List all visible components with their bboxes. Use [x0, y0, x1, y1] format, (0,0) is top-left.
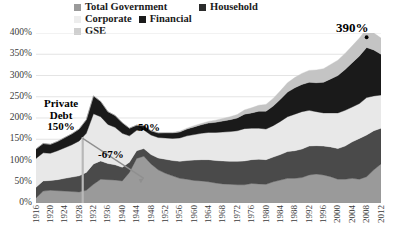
x-axis-tick-label: 1972 — [233, 205, 242, 223]
x-axis-tick-label: 1984 — [276, 205, 285, 223]
legend-swatch-total-government — [74, 4, 81, 11]
debt-to-gdp-area-chart: Total Government Household Corporate Fin… — [0, 0, 393, 252]
legend-swatch-financial — [139, 16, 146, 23]
stacked-area-svg — [36, 33, 381, 203]
x-axis-tick-label: 2008 — [362, 205, 371, 223]
x-axis-tick-label: 1940 — [118, 205, 127, 223]
y-axis-tick-label: 300% — [0, 71, 32, 81]
x-axis-tick-label: 1996 — [319, 205, 328, 223]
plot-area — [36, 33, 381, 203]
legend-label-financial: Financial — [150, 13, 192, 25]
legend-label-total-government: Total Government — [85, 1, 167, 13]
x-axis-tick-label: 1960 — [190, 205, 199, 223]
x-axis-tick-label: 1916 — [32, 205, 41, 223]
x-axis-tick-label: 2004 — [348, 205, 357, 223]
legend-item-corporate[interactable]: Corporate — [74, 13, 132, 25]
x-axis-tick-label: 1924 — [60, 205, 69, 223]
x-axis-tick-label: 1964 — [204, 205, 213, 223]
x-axis-tick-label: 1944 — [132, 205, 141, 223]
x-axis-tick-label: 1992 — [305, 205, 314, 223]
legend-swatch-corporate — [74, 16, 81, 23]
x-axis-tick-label: 2012 — [377, 205, 386, 223]
y-axis-tick-label: 350% — [0, 50, 32, 60]
y-axis-tick-label: 0% — [0, 198, 32, 208]
x-axis-tick-label: 1920 — [46, 205, 55, 223]
legend-label-household: Household — [210, 1, 258, 13]
y-axis: 0%50%100%150%200%250%300%350%400% — [0, 33, 34, 203]
x-axis-tick-label: 1980 — [262, 205, 271, 223]
x-axis-tick-label: 1956 — [175, 205, 184, 223]
annotation-fifty: 50% — [138, 121, 160, 133]
x-axis-tick-label: 1988 — [290, 205, 299, 223]
x-axis-tick-label: 1952 — [161, 205, 170, 223]
x-axis-tick-label: 1976 — [247, 205, 256, 223]
legend-swatch-household — [199, 4, 206, 11]
x-axis-tick-label: 2000 — [333, 205, 342, 223]
y-axis-tick-label: 200% — [0, 113, 32, 123]
x-axis-tick-label: 1968 — [218, 205, 227, 223]
annotation-private-debt: Private Debt 150% — [44, 98, 78, 133]
legend-label-corporate: Corporate — [85, 13, 132, 25]
y-axis-tick-label: 50% — [0, 177, 32, 187]
y-axis-tick-label: 150% — [0, 135, 32, 145]
x-axis: 1916192019241928193219361940194419481952… — [36, 205, 381, 251]
legend-item-household[interactable]: Household — [199, 1, 281, 13]
annotation-decline: -67% — [98, 148, 124, 160]
legend-item-financial[interactable]: Financial — [139, 13, 257, 25]
chart-legend: Total Government Household Corporate Fin… — [74, 1, 324, 37]
legend-item-total-government[interactable]: Total Government — [74, 1, 192, 13]
y-axis-tick-label: 100% — [0, 156, 32, 166]
x-axis-tick-label: 1932 — [89, 205, 98, 223]
annotation-peak: 390% — [336, 20, 369, 36]
y-axis-tick-label: 250% — [0, 92, 32, 102]
x-axis-tick-label: 1948 — [147, 205, 156, 223]
x-axis-tick-label: 1936 — [103, 205, 112, 223]
x-axis-tick-label: 1928 — [75, 205, 84, 223]
y-axis-tick-label: 400% — [0, 28, 32, 38]
